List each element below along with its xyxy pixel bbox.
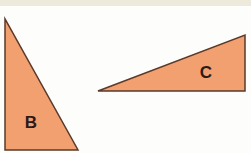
triangle-c: C	[98, 35, 245, 91]
triangle-c-label: C	[200, 63, 212, 82]
triangles-diagram: B C	[0, 0, 251, 153]
triangle-c-shape	[98, 35, 245, 91]
figure-canvas: B C	[0, 0, 251, 153]
triangle-b-shape	[5, 19, 78, 150]
triangle-b: B	[5, 19, 78, 150]
triangle-b-label: B	[25, 113, 37, 132]
